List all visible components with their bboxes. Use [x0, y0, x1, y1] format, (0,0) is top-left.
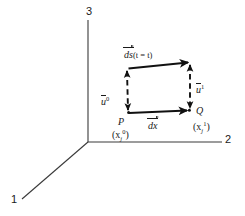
point-p-coordinates: (xj0): [112, 129, 129, 143]
axis-label-3: 3: [86, 6, 92, 17]
axis-group: [22, 20, 222, 199]
dx-vector-label: dx: [148, 121, 157, 131]
p-coord-subscript: j: [120, 135, 122, 142]
u1-symbol: u: [196, 85, 201, 95]
u0-superscript: 0: [106, 95, 109, 102]
ds-vector-label: ds(t = t): [124, 50, 152, 60]
point-q-dot: [188, 109, 191, 112]
dx-symbol: dx: [148, 121, 157, 131]
q-coord-close-paren: ): [206, 121, 209, 132]
axis-label-1: 1: [11, 194, 17, 205]
dx-vector-arrow: [129, 111, 187, 114]
point-p-label: P: [118, 117, 124, 127]
p-coord-close-paren: ): [125, 129, 128, 140]
q-coord-subscript: j: [201, 127, 203, 134]
physics-vector-diagram: 3 2 1 ds(t = t) u0 u1 dx P (xj0) Q (xj1): [0, 0, 245, 216]
diagram-canvas: [0, 0, 245, 216]
u1-superscript: 1: [201, 83, 204, 90]
u1-vector-label: u1: [196, 84, 204, 95]
point-q-coordinates: (xj1): [193, 121, 210, 135]
point-p-dot: [127, 111, 130, 114]
ds-symbol: ds: [124, 50, 133, 60]
point-q-label: Q: [196, 106, 203, 116]
axis-label-2: 2: [225, 134, 231, 145]
u0-symbol: u: [101, 97, 106, 107]
ds-vector-arrow: [129, 63, 189, 69]
u0-vector-dashed: [127, 71, 128, 110]
u0-vector-label: u0: [101, 96, 109, 107]
axis-1-oblique: [22, 142, 88, 199]
ds-time-parenthetical: (t = t): [133, 50, 152, 60]
parallelogram-group: [127, 63, 191, 115]
